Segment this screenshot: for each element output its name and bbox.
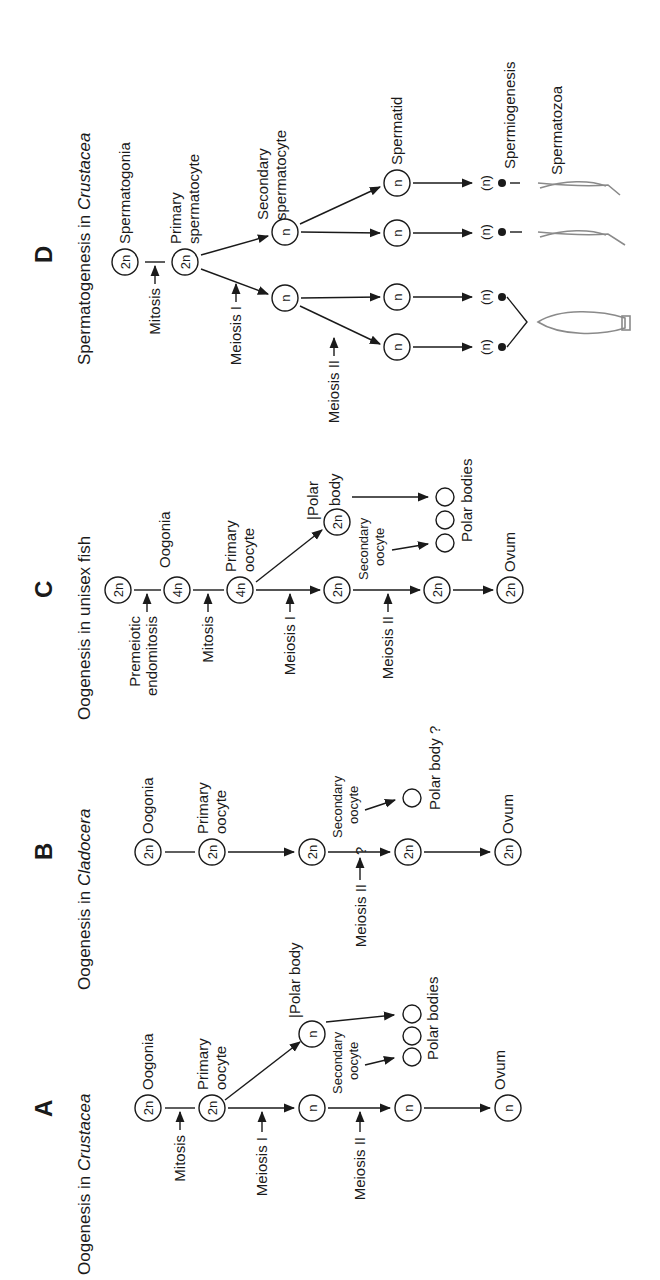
ploidy-label: 2n [118,255,133,269]
ploidy-label: 2n [178,255,193,269]
ploidy-label: 2n [141,1101,156,1115]
process-label: endomitosis [143,616,160,696]
ploidy-label: 4n [233,583,248,597]
panel-letter: C [30,581,57,598]
arrow-icon [225,1042,300,1100]
stage-label: |Polar body [286,942,303,1018]
stage-label: Polar bodies [458,459,475,542]
stage-label: Secondary [356,517,371,580]
spermatozoon-icon [538,182,620,195]
arrow-icon [301,297,380,298]
panel-title: Oogenesis in Cladocera [75,809,94,990]
process-label: Mitosis [171,1135,188,1182]
polar-body-icon [436,488,454,506]
panel-title: Oogenesis in Crustacea [75,1094,94,1275]
arrow-icon [326,1015,394,1022]
stage-label: oocyte [212,1046,229,1090]
process-label: Meiosis II [325,360,342,423]
ploidy-label: 2n [430,583,445,597]
ploidy-label: n [401,1104,416,1111]
ploidy-label: n [390,293,405,300]
panel-a: A Oogenesis in Crustacea 2n Oogonia Mito… [30,942,521,1275]
stage-label: Secondary [330,1031,345,1094]
stage-label: oocyte [240,528,257,572]
stage-label: Spermatozoa [548,85,565,175]
stage-label: Oogonia [156,511,173,568]
nucleus-label: (n) [478,175,493,191]
stage-label: oocyte [372,528,387,566]
ploidy-label: 2n [330,515,345,529]
nucleus-label: (n) [478,224,493,240]
stage-label: Ovum [491,1050,508,1090]
stage-label: Primary [194,782,211,834]
stage-label: Primary [194,1038,211,1090]
ploidy-label: n [278,228,293,235]
stage-label: Primary [167,192,184,244]
ploidy-label: 2n [205,845,220,859]
arrow-icon [301,232,380,233]
polar-body-icon [403,1027,421,1045]
arrow-icon [392,544,428,550]
nucleus-dot-icon [498,228,506,236]
stage-label: spermatocyte [272,130,289,220]
process-label: Meiosis II [351,1137,368,1200]
polar-body-icon [436,511,454,529]
ploidy-label: n [390,179,405,186]
gametogenesis-diagram: A Oogenesis in Crustacea 2n Oogonia Mito… [0,0,660,1280]
panel-letter: D [30,246,57,263]
panel-title: Oogenesis in unisex fish [75,536,94,720]
stage-label: Ovum [499,794,516,834]
ploidy-label: 2n [503,583,518,597]
process-label: Mitosis [146,288,163,335]
ploidy-label: n [501,1104,516,1111]
stage-label: oocyte [346,1042,361,1080]
question-mark: ? [352,847,369,855]
ploidy-label: n [305,1104,320,1111]
nucleus-dot-icon [498,343,506,351]
diagram-canvas: A Oogenesis in Crustacea 2n Oogonia Mito… [0,0,660,1280]
panel-title: Spermatogenesis in Crustacea [75,133,94,365]
stage-label: Secondary [330,775,345,838]
process-label: Premeiotic [126,616,143,687]
stage-label: Spermatid [388,97,405,165]
ploidy-label: 2n [305,845,320,859]
polar-body-icon [403,1048,421,1066]
nucleus-dot-icon [498,179,506,187]
spermatozoon-icon [538,231,625,245]
stage-label: Oogonia [139,777,156,834]
ploidy-label: 2n [111,583,126,597]
ploidy-label: n [390,343,405,350]
stage-label: Ovum [501,532,518,572]
stage-label: Secondary [254,148,271,220]
spermatozoon-icon [538,312,630,334]
panel-d: D Spermatogenesis in Crustacea 2n Sperma… [30,61,630,423]
process-label: Meiosis I [253,1137,270,1196]
stage-label: Spermatogonia [116,142,133,244]
polar-body-icon [436,534,454,552]
process-label: Meiosis II [379,616,396,679]
stage-label: oocyte [346,786,361,824]
arrow-icon [365,800,395,810]
ploidy-label: 2n [205,1101,220,1115]
stage-label: oocyte [212,790,229,834]
arrow-icon [201,236,268,255]
nucleus-dot-icon [498,293,506,301]
polar-body-icon [403,1005,421,1023]
stage-label: Oogonia [139,1033,156,1090]
stage-label: |Polar [304,481,321,520]
nucleus-label: (n) [478,339,493,355]
ploidy-label: n [305,1030,320,1037]
process-label: Mitosis [199,616,216,663]
ploidy-label: 2n [141,845,156,859]
stage-label: Polar body ? [426,726,443,810]
stage-label: spermatocyte [185,154,202,244]
process-label: Meiosis I [227,306,244,365]
arrow-icon [300,187,380,224]
ploidy-label: n [390,229,405,236]
ploidy-label: 4n [170,583,185,597]
ploidy-label: 2n [401,845,416,859]
stage-label: Spermiogenesis [501,61,518,169]
arrow-icon [201,269,268,294]
process-label: Meiosis I [281,616,298,675]
arrow-icon [300,306,380,344]
